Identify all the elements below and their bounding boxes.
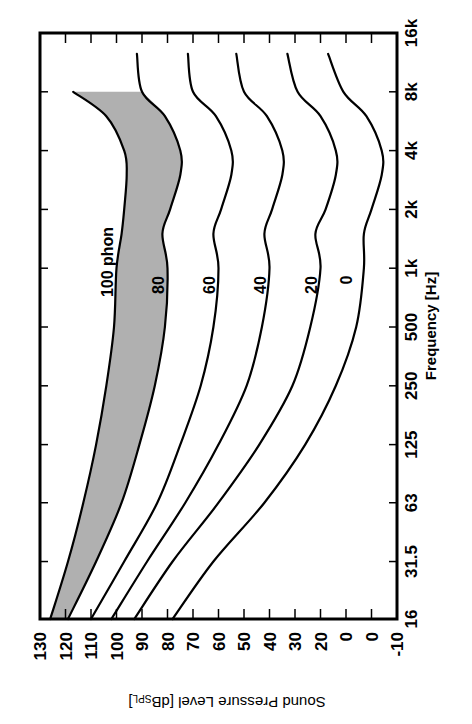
- spl-tick-label: 120: [57, 632, 76, 660]
- freq-tick-label: 16k: [402, 18, 421, 47]
- curve-label-60-phon: 60: [201, 276, 218, 294]
- freq-tick-label: 31.5: [402, 545, 421, 578]
- freq-tick-label: 250: [402, 372, 421, 400]
- spl-tick-label: 60: [210, 632, 229, 651]
- spl-tick-label: 70: [184, 632, 203, 651]
- x-axis-title: Frequency [Hz]: [422, 272, 439, 380]
- spl-tick-label: 0: [337, 632, 356, 641]
- spl-tick-label: 50: [235, 632, 254, 651]
- spl-tick-label: 110: [82, 632, 101, 659]
- spl-tick-label: 0: [363, 632, 382, 641]
- svg-text:Sound Pressure Level [dBSPL]: Sound Pressure Level [dBSPL]: [128, 693, 325, 711]
- equal-loudness-chart: 1631.5631252505001k2k4k8k16k 13012011010…: [0, 0, 472, 724]
- y-axis-title: Sound Pressure Level [dBSPL]: [128, 693, 325, 711]
- freq-tick-label: 63: [402, 493, 421, 512]
- spl-tick-label: 100: [108, 632, 127, 660]
- spl-tick-label: 30: [286, 632, 305, 651]
- curve-label-80-phon: 80: [150, 276, 167, 294]
- frequency-tick-labels: 1631.5631252505001k2k4k8k16k: [402, 18, 421, 628]
- spl-tick-label: -10: [388, 632, 407, 657]
- freq-tick-label: 500: [402, 313, 421, 341]
- spl-tick-label: 40: [261, 632, 280, 651]
- curve-label-100-phon: 100 phon: [99, 227, 116, 297]
- spl-tick-label: 20: [312, 632, 331, 651]
- spl-tick-labels: 130120110100908070605040302000-10: [31, 632, 407, 660]
- curve-label-0-phon: 0: [338, 275, 355, 284]
- spl-tick-label: 130: [31, 632, 50, 660]
- freq-tick-label: 16: [402, 610, 421, 629]
- freq-tick-label: 2k: [402, 199, 421, 218]
- freq-tick-label: 8k: [402, 82, 421, 101]
- spl-tick-label: 90: [133, 632, 152, 651]
- freq-tick-label: 1k: [402, 258, 421, 277]
- freq-tick-label: 4k: [402, 141, 421, 160]
- curve-label-40-phon: 40: [252, 276, 269, 294]
- curve-label-20-phon: 20: [303, 276, 320, 294]
- spl-tick-label: 80: [159, 632, 178, 651]
- freq-tick-label: 125: [402, 430, 421, 458]
